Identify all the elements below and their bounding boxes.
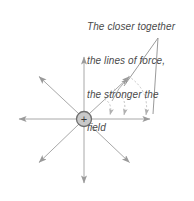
annotation-line-2: the lines of force, [87, 55, 194, 66]
annotation-line-4: field [87, 122, 194, 133]
annotation-line-1: The closer together [87, 21, 194, 32]
annotation-caption: The closer together the lines of force, … [87, 0, 194, 156]
field-line-up-left [39, 77, 79, 114]
annotation-line-3: the stronger the [87, 89, 194, 100]
field-line-down-left [39, 125, 79, 163]
field-line-diagram-figure: The closer together the lines of force, … [0, 0, 194, 201]
